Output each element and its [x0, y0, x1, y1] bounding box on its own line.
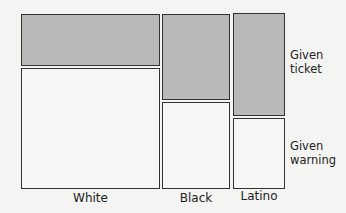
- black-warning-cell: [162, 102, 230, 189]
- white-warning-cell: [21, 68, 160, 189]
- x-label-white: White: [21, 191, 160, 205]
- row-label-warning: Given warning: [290, 139, 336, 167]
- latino-ticket-cell: [233, 13, 285, 116]
- row-label-ticket: Given ticket: [290, 48, 323, 76]
- x-label-black: Black: [162, 191, 230, 205]
- black-ticket-cell: [162, 14, 230, 100]
- x-label-latino: Latino: [233, 189, 285, 203]
- white-ticket-cell: [21, 14, 160, 66]
- latino-warning-cell: [233, 118, 285, 189]
